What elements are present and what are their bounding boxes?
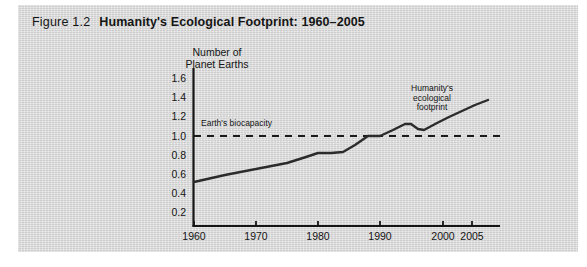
footprint-series-line [194,100,488,182]
chart-plot-area [0,0,587,267]
figure-container: Figure 1.2Humanity's Ecological Footprin… [0,0,587,267]
